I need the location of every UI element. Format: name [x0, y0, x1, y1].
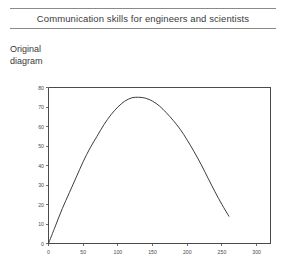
- y-tick-label: 20: [38, 202, 44, 208]
- chart-curve: [49, 97, 229, 243]
- chart-series-layer: [49, 97, 229, 243]
- y-tick-label: 60: [38, 124, 44, 130]
- x-tick-label: 150: [148, 249, 157, 255]
- y-tick-label: 80: [38, 85, 44, 91]
- y-tick-label: 10: [38, 221, 44, 227]
- x-axis-ticks: 050100150200250300: [47, 244, 261, 255]
- y-axis-ticks: 01020304050607080: [38, 85, 48, 247]
- chart-figure: 01020304050607080 050100150200250300: [0, 0, 286, 269]
- x-tick-label: 300: [252, 249, 261, 255]
- y-tick-label: 0: [41, 241, 44, 247]
- chart-svg: 01020304050607080 050100150200250300: [0, 0, 286, 269]
- x-tick-label: 50: [80, 249, 86, 255]
- y-tick-label: 30: [38, 182, 44, 188]
- x-tick-label: 200: [183, 249, 192, 255]
- y-tick-label: 70: [38, 104, 44, 110]
- x-tick-label: 100: [114, 249, 123, 255]
- y-tick-label: 40: [38, 163, 44, 169]
- y-tick-label: 50: [38, 143, 44, 149]
- x-tick-label: 0: [47, 249, 50, 255]
- page-canvas: Communication skills for engineers and s…: [0, 0, 286, 269]
- x-tick-label: 250: [218, 249, 227, 255]
